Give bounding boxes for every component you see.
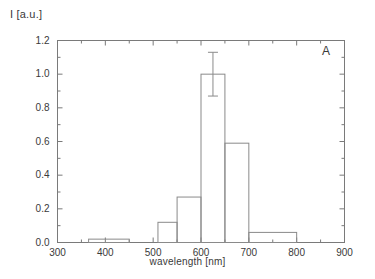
figure-panel: I [a.u.] wavelength [nm] A 0.00.20.40.60…	[0, 0, 375, 279]
plot-canvas	[0, 0, 375, 279]
x-tick-label: 700	[229, 247, 269, 258]
x-tick-label: 300	[38, 247, 78, 258]
histogram-bar	[201, 74, 225, 242]
x-tick-label: 800	[277, 247, 317, 258]
y-tick-label: 0.8	[16, 102, 50, 113]
y-tick-label: 0.4	[16, 169, 50, 180]
histogram-bar	[89, 239, 130, 242]
histogram-bar	[177, 197, 201, 242]
histogram-bars	[89, 74, 297, 242]
y-tick-label: 0.6	[16, 136, 50, 147]
y-tick-label: 0.2	[16, 203, 50, 214]
x-axis-label: wavelength [nm]	[0, 256, 375, 267]
x-tick-label: 600	[181, 247, 221, 258]
y-axis-label: I [a.u.]	[10, 8, 42, 20]
histogram-bar	[225, 143, 249, 242]
x-tick-label: 900	[325, 247, 365, 258]
histogram-bar	[158, 222, 177, 242]
y-tick-label: 1.0	[16, 68, 50, 79]
x-tick-label: 400	[85, 247, 125, 258]
y-tick-label: 1.2	[16, 35, 50, 46]
panel-label-a: A	[322, 44, 330, 58]
x-tick-label: 500	[133, 247, 173, 258]
